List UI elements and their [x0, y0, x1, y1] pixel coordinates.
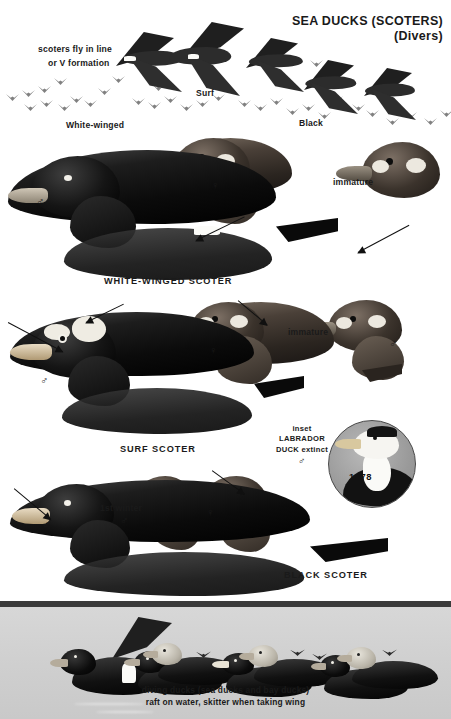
panel-caption-line1: diving ducks (sea ducks and bay ducks): [0, 684, 451, 696]
field-guide-page: SEA DUCKS (SCOTERS) (Divers) scoters fly…: [0, 0, 451, 719]
duck-surf-male: [10, 312, 300, 438]
label-first-winter-black: 1st winter: [100, 503, 142, 513]
page-title-line1: SEA DUCKS (SCOTERS): [292, 14, 443, 29]
duck-white-winged-immature-head: [332, 140, 450, 212]
panel-caption-line2: raft on water, skitter when taking wing: [0, 696, 451, 708]
label-immature-white-winged: immature: [333, 177, 373, 187]
flying-scoter-black-2: [352, 70, 428, 120]
panel-top-bar: [0, 601, 451, 607]
flight-label-black: Black: [299, 118, 323, 128]
species-label-white-winged-scoter: WHITE-WINGED SCOTER: [104, 276, 232, 286]
duck-white-winged-male: [8, 150, 338, 286]
species-label-surf-scoter: SURF SCOTER: [120, 444, 196, 454]
symbol-female-black: ♀: [206, 507, 214, 518]
label-immature-surf: immature: [288, 327, 328, 337]
symbol-female-white-winged: ♀: [211, 180, 219, 191]
symbol-male-surf-immature: ♂: [389, 338, 397, 349]
species-label-black-scoter: BLACK SCOTER: [284, 570, 368, 580]
symbol-male-surf: ♂: [40, 375, 48, 386]
formation-note-line2: or V formation: [48, 58, 110, 68]
symbol-male-black-first-winter: ♂: [120, 515, 128, 526]
symbol-male-black: ♂: [42, 519, 50, 530]
flight-label-white-winged: White-winged: [66, 120, 124, 130]
symbol-female-surf: ♀: [209, 345, 217, 356]
flight-label-surf: Surf: [196, 88, 214, 98]
arrow-wing-patch-immature: [358, 225, 410, 253]
panel-caption: diving ducks (sea ducks and bay ducks) r…: [0, 684, 451, 708]
bottom-panel-rafting-ducks: diving ducks (sea ducks and bay ducks) r…: [0, 601, 451, 719]
formation-note-line1: scoters fly in line: [38, 44, 112, 54]
symbol-male-white-winged: ♂: [36, 196, 44, 207]
inset-caption-line1: inset: [258, 424, 346, 434]
